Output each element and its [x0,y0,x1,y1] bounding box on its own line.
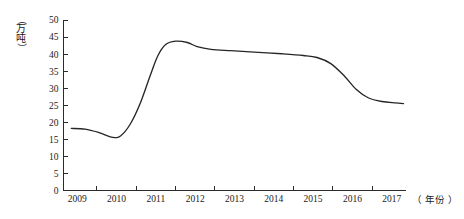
y-tick-label: 20 [49,118,59,128]
y-axis-ticks: 05101520253035404550 [49,15,68,196]
x-tick-label: 2015 [304,194,323,204]
data-series-line [71,41,403,138]
y-tick-label: 30 [49,84,59,94]
y-tick-label: 15 [49,135,59,145]
x-tick-label: 2012 [186,194,205,204]
x-tick-label: 2014 [264,194,283,204]
y-tick-label: 40 [49,50,59,60]
x-tick-label: 2017 [382,194,401,204]
chart-container: （ 万 吨 ） （ 年份 ） 05101520253035404550 2009… [0,0,464,219]
y-tick-label: 35 [49,67,59,77]
x-tick-label: 2010 [107,194,126,204]
y-tick-label: 50 [49,15,59,25]
x-axis-ticks: 200920102011201220132014201520162017 [68,186,402,204]
x-tick-label: 2009 [68,194,87,204]
x-tick-label: 2016 [343,194,362,204]
x-tick-label: 2011 [147,194,166,204]
x-tick-label: 2013 [225,194,244,204]
y-tick-label: 45 [49,32,59,42]
y-tick-label: 5 [54,169,59,179]
y-tick-label: 10 [49,152,59,162]
y-tick-label: 25 [49,101,59,111]
y-tick-label: 0 [54,186,59,196]
line-chart-plot: 05101520253035404550 2009201020112012201… [0,0,464,219]
